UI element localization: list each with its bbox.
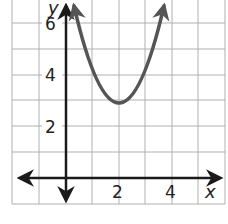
parabola-graph: 6 4 2 2 4 y x <box>0 0 228 224</box>
x-axis-label: x <box>204 181 216 202</box>
y-axis-label: y <box>47 0 59 18</box>
x-tick-2: 2 <box>112 182 123 202</box>
y-tick-2: 2 <box>45 117 56 137</box>
y-tick-4: 4 <box>45 65 56 85</box>
x-tick-4: 4 <box>165 182 176 202</box>
